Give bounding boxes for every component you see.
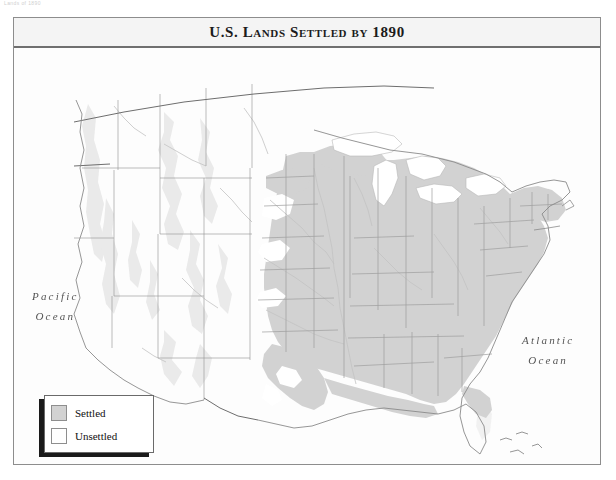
map-title-bar: U.S. Lands Settled by 1890 [14, 18, 600, 48]
map-figure: U.S. Lands Settled by 1890 [13, 17, 601, 465]
legend-label-unsettled: Unsettled [75, 430, 117, 442]
legend-swatch-settled [51, 405, 67, 421]
map-legend: Settled Unsettled [39, 399, 149, 457]
page-title: U.S. Lands Settled by 1890 [209, 24, 404, 41]
legend-box: Settled Unsettled [44, 395, 154, 453]
legend-swatch-unsettled [51, 428, 67, 444]
page-caption: Lands of 1890 [4, 0, 41, 6]
legend-item-unsettled: Unsettled [51, 424, 147, 447]
legend-item-settled: Settled [51, 401, 147, 424]
legend-label-settled: Settled [75, 407, 106, 419]
